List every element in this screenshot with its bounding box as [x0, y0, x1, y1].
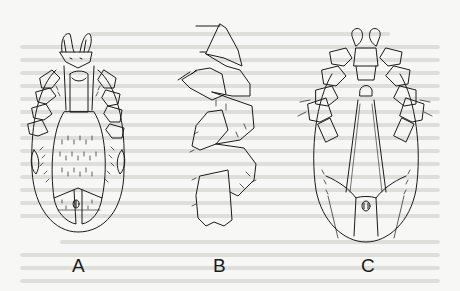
mite-leg-drawing-b — [178, 24, 256, 226]
figure-illustration — [0, 0, 460, 291]
mite-ventral-drawing-c — [298, 29, 432, 242]
mite-dorsal-drawing-a — [28, 34, 125, 232]
panel-label-a: A — [72, 255, 85, 277]
panel-label-b: B — [213, 255, 226, 277]
panel-label-c: C — [361, 255, 375, 277]
